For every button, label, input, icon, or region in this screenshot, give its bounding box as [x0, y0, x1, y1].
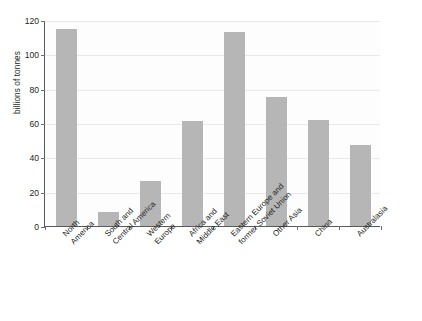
- bars-group: [45, 21, 380, 226]
- x-tick-mark: [339, 226, 340, 230]
- bar: [182, 121, 203, 226]
- y-tick-label: 0: [34, 222, 39, 232]
- x-tick-mark: [297, 226, 298, 230]
- y-tick-label: 100: [25, 50, 39, 60]
- bar: [308, 120, 329, 226]
- y-tick-label: 20: [29, 188, 39, 198]
- plot-area: 020406080100120: [44, 21, 380, 227]
- x-tick-mark: [45, 226, 46, 230]
- y-tick-label: 80: [29, 85, 39, 95]
- y-axis-title: billions of tonnes: [13, 28, 22, 138]
- y-tick-label: 60: [29, 119, 39, 129]
- bar: [224, 32, 245, 226]
- bar: [56, 29, 77, 226]
- bar-chart: billions of tonnes 020406080100120 North…: [0, 0, 422, 321]
- y-tick-label: 40: [29, 153, 39, 163]
- x-axis-labels: NorthAmericaSouth andCentral AmericaWest…: [44, 232, 380, 320]
- x-tick-mark: [381, 226, 382, 230]
- y-tick-label: 120: [25, 16, 39, 26]
- bar: [350, 145, 371, 226]
